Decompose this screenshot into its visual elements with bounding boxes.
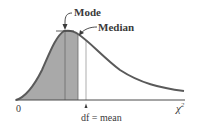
x-axis-label: χ2 [175,101,185,114]
shaded-area [16,31,78,100]
mean-arrowhead-icon [85,104,88,109]
median-arrow [81,27,97,33]
mode-label: Mode [74,6,101,18]
mean-label: df = mean [81,112,122,123]
median-label: Median [98,21,134,33]
mode-arrowhead-icon [63,24,68,30]
origin-label: 0 [16,103,21,114]
chi-square-chart: Mode Median 0 df = mean χ2 [0,0,206,134]
superscript-two: 2 [181,101,185,109]
